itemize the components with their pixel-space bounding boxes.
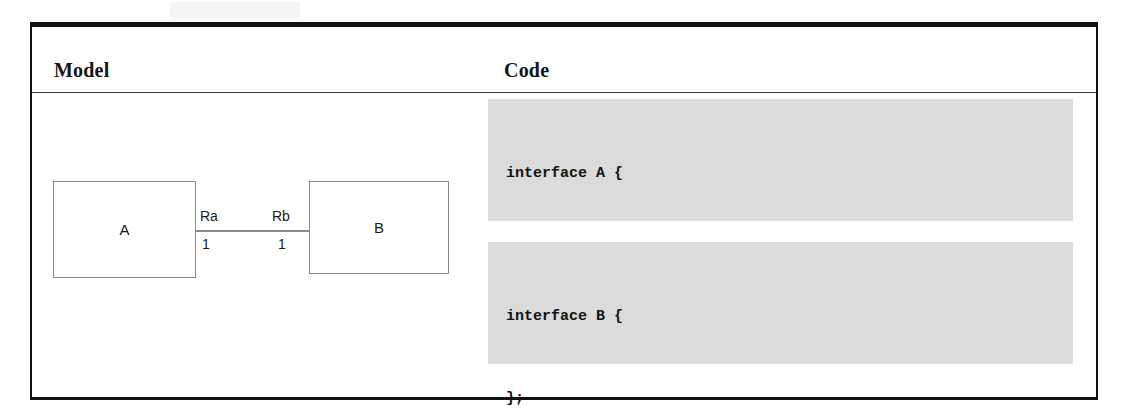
model-column-cell: A B Ra Rb 1 1: [32, 93, 488, 398]
uml-role-label-rb: Rb: [272, 208, 290, 224]
uml-class-box-b: B: [309, 181, 449, 274]
code-line: interface B {: [506, 304, 1073, 329]
code-block-interface-a: interface A { attribute B Rb; };: [488, 99, 1073, 221]
uml-class-a-label: A: [119, 221, 129, 238]
uml-multiplicity-b: 1: [278, 236, 286, 252]
table-header-row: Model Code: [32, 27, 1096, 93]
code-line: [506, 379, 1073, 404]
table-body-row: A B Ra Rb 1 1 interface A { attribute B …: [32, 93, 1096, 398]
uml-class-b-label: B: [374, 219, 384, 236]
code-block-interface-b: interface B { attribute A Ra; };: [488, 242, 1073, 364]
column-header-code: Code: [504, 59, 549, 82]
uml-multiplicity-a: 1: [202, 236, 210, 252]
uml-association-line: [195, 230, 310, 232]
uml-class-box-a: A: [53, 181, 196, 278]
code-line: interface A {: [506, 161, 1073, 186]
uml-role-label-ra: Ra: [200, 208, 218, 224]
code-column-cell: interface A { attribute B Rb; }; interfa…: [488, 93, 1096, 398]
column-header-model: Model: [54, 59, 109, 82]
scan-artifact: [170, 2, 300, 18]
figure-table: Model Code A B Ra Rb 1 1 interface A { a…: [30, 22, 1098, 400]
